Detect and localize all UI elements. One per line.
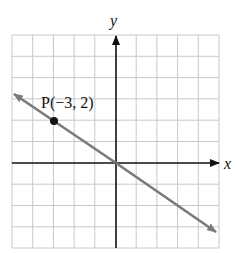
- y-axis-label: y: [108, 12, 118, 30]
- line-through-origin: [116, 163, 216, 232]
- x-axis-label: x: [223, 155, 231, 172]
- point-p: [50, 117, 58, 125]
- coordinate-plane: x y P(−3, 2): [0, 0, 237, 254]
- point-p-label: P(−3, 2): [41, 94, 94, 112]
